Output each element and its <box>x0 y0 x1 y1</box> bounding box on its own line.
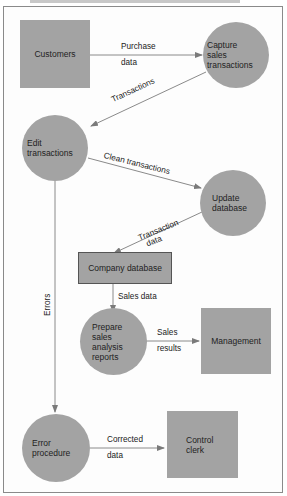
label-purchase: Purchase <box>121 42 156 52</box>
node-update-database: Update database <box>200 170 266 236</box>
node-capture-line-2: sales <box>207 50 253 60</box>
node-edit-line-2: transactions <box>27 148 73 158</box>
node-error-line-2: procedure <box>32 448 70 458</box>
label-corrected-data: data <box>107 451 123 461</box>
node-edit-line-1: Edit <box>27 138 73 148</box>
node-customers: Customers <box>20 20 90 88</box>
node-error-line-1: Error <box>32 438 70 448</box>
node-capture-sales-transactions: Capture sales transactions <box>203 22 269 88</box>
node-update-line-1: Update <box>212 193 247 203</box>
node-edit-transactions: Edit transactions <box>22 115 88 181</box>
node-prepare-line-4: reports <box>92 352 123 362</box>
label-sales: Sales <box>157 328 177 338</box>
node-prepare-line-1: Prepare <box>92 322 123 332</box>
node-control-clerk-line-1: Control <box>186 435 213 445</box>
node-prepare-line-3: analysis <box>92 342 123 352</box>
label-corrected: Corrected <box>107 435 143 445</box>
node-prepare-sales-analysis-reports: Prepare sales analysis reports <box>80 308 147 375</box>
node-management: Management <box>201 308 271 374</box>
node-company-database-label: Company database <box>88 263 162 273</box>
node-management-label: Management <box>211 336 261 346</box>
node-error-procedure: Error procedure <box>22 414 90 482</box>
node-prepare-line-2: sales <box>92 332 123 342</box>
node-company-database: Company database <box>78 252 172 284</box>
label-sales-results: results <box>157 344 181 354</box>
node-capture-line-1: Capture <box>207 40 253 50</box>
label-errors: Errors <box>43 294 53 316</box>
node-control-clerk-line-2: clerk <box>186 445 213 455</box>
node-capture-line-3: transactions <box>207 60 253 70</box>
label-sales-data: Sales data <box>118 292 157 302</box>
label-purchase-data: data <box>121 58 137 68</box>
node-control-clerk: Control clerk <box>167 411 238 478</box>
node-customers-label: Customers <box>34 49 75 59</box>
node-update-line-2: database <box>212 203 247 213</box>
